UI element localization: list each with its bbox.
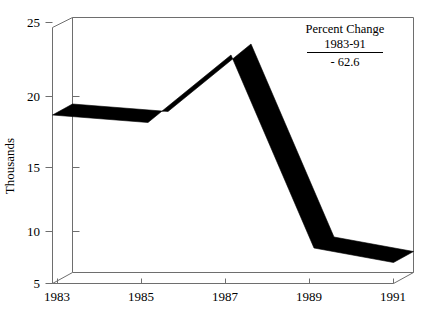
annotation-value: - 62.6 — [330, 55, 359, 69]
annotation-period: 1983-91 — [324, 37, 366, 51]
x-axis: 1983 1985 1987 1989 1991 — [44, 279, 406, 305]
chart-container: 25 20 15 10 5 Thousands 1983 1985 1987 1… — [0, 0, 440, 317]
x-tick-label-1985: 1985 — [128, 289, 154, 304]
series-band — [53, 44, 414, 263]
y-tick-label-10: 10 — [27, 224, 40, 239]
line-chart: 25 20 15 10 5 Thousands 1983 1985 1987 1… — [0, 0, 440, 317]
x-tick-label-1983: 1983 — [44, 289, 70, 304]
data-series-ribbon — [53, 44, 414, 263]
y-tick-label-25: 25 — [27, 15, 40, 30]
y-tick-label-5: 5 — [34, 276, 41, 291]
x-tick-label-1987: 1987 — [212, 289, 239, 304]
y-tick-label-15: 15 — [27, 160, 40, 175]
percent-change-annotation: Percent Change 1983-91 - 62.6 — [306, 22, 385, 69]
y-axis-title: Thousands — [2, 138, 17, 194]
x-tick-label-1991: 1991 — [380, 289, 406, 304]
annotation-title: Percent Change — [306, 22, 385, 36]
depth-edge-top-left — [53, 18, 73, 28]
floor-right-diagonal — [394, 273, 414, 284]
x-tick-label-1989: 1989 — [296, 289, 322, 304]
y-axis: 25 20 15 10 5 Thousands — [2, 15, 80, 291]
floor-left-diagonal — [53, 273, 73, 284]
y-tick-label-20: 20 — [27, 89, 40, 104]
